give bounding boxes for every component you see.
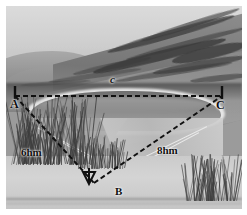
side-label-c: c: [110, 74, 115, 85]
vertex-label-b: B: [115, 186, 122, 197]
side-label-bc: 8hm: [157, 145, 178, 156]
vertex-label-c: C: [216, 99, 225, 111]
triangle-overlay: [0, 0, 247, 215]
side-ab-line: [15, 96, 94, 183]
side-bc-line: [94, 96, 222, 183]
vertex-label-a: A: [10, 98, 19, 110]
side-label-ab: 6hm: [21, 147, 42, 158]
figure-canvas: A B C c 6hm 8hm: [0, 0, 247, 215]
